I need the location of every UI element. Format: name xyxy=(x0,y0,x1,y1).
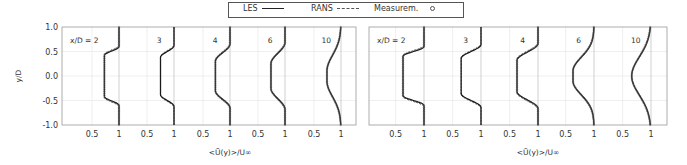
x-tick-label: 1 xyxy=(282,130,287,139)
y-tick-label: -1.0 xyxy=(42,121,58,130)
x-tick-label: 0.5 xyxy=(197,130,210,139)
panel-label: 6 xyxy=(268,36,273,45)
x-tick-label: 1 xyxy=(535,130,540,139)
x-tick-label: 0.5 xyxy=(559,130,572,139)
y-tick-label: 0.5 xyxy=(45,48,58,57)
plot-right: 0.51x/D = 20.5130.5140.5160.5110<Ũ(y)>/U… xyxy=(369,26,667,157)
x-tick-label: 1 xyxy=(116,130,121,139)
x-tick-label: 1 xyxy=(227,130,232,139)
figure: 1.00.50.0-0.5-1.0y/D0.51x/D = 20.5130.51… xyxy=(0,0,687,165)
panel-label: 3 xyxy=(157,36,162,45)
y-tick-label: 0.0 xyxy=(45,72,58,81)
x-tick-label: 1 xyxy=(591,130,596,139)
y-tick-label: -0.5 xyxy=(42,97,58,106)
panel-label: x/D = 2 xyxy=(70,36,99,45)
panel-label: 4 xyxy=(520,36,525,45)
x-tick-label: 1 xyxy=(648,130,653,139)
x-tick-label: 1 xyxy=(478,130,483,139)
y-tick-label: 1.0 xyxy=(45,23,58,32)
panel-label: 4 xyxy=(213,36,218,45)
x-axis-title: <Ũ(y)>/U∞ xyxy=(209,148,252,157)
x-tick-label: 1 xyxy=(421,130,426,139)
x-tick-label: 0.5 xyxy=(503,130,516,139)
x-axis-title: <Ũ(y)>/U∞ xyxy=(517,148,560,157)
panel-label: x/D = 2 xyxy=(377,36,406,45)
panel-label: 10 xyxy=(631,36,641,45)
x-tick-label: 0.5 xyxy=(252,130,265,139)
plot-left: 1.00.50.0-0.5-1.0y/D0.51x/D = 20.5130.51… xyxy=(14,23,356,157)
x-tick-label: 0.5 xyxy=(86,130,99,139)
x-tick-label: 1 xyxy=(171,130,176,139)
panel-label: 6 xyxy=(576,36,581,45)
x-tick-label: 0.5 xyxy=(616,130,629,139)
x-tick-label: 0.5 xyxy=(308,130,321,139)
x-tick-label: 0.5 xyxy=(389,130,402,139)
x-tick-label: 0.5 xyxy=(141,130,154,139)
y-axis-title: y/D xyxy=(14,69,23,82)
x-tick-label: 0.5 xyxy=(446,130,459,139)
x-tick-label: 1 xyxy=(338,130,343,139)
panel-label: 3 xyxy=(463,36,468,45)
panel-label: 10 xyxy=(321,36,331,45)
